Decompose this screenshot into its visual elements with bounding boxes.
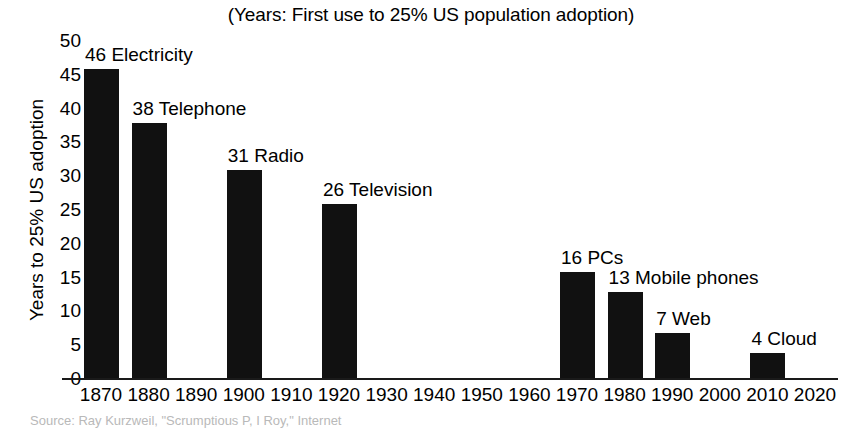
bar	[608, 292, 643, 380]
y-axis-tick: 40	[41, 98, 81, 117]
y-axis-tick: 5	[41, 335, 81, 354]
bar	[227, 170, 262, 380]
bar-value-label: 26 Television	[323, 179, 433, 202]
bar	[655, 333, 690, 380]
bar	[132, 123, 167, 380]
source-note: Source: Ray Kurzweil, "Scrumptious P, I …	[30, 414, 342, 428]
x-axis-tick: 2020	[785, 384, 845, 405]
bar	[750, 353, 785, 380]
y-axis-tick: 35	[41, 132, 81, 151]
bar-value-label: 4 Cloud	[751, 328, 817, 351]
bar-value-label: 7 Web	[656, 308, 711, 331]
y-axis-tick: 15	[41, 267, 81, 286]
plot-area: 50454035302520151050 46 Electricity38 Te…	[88, 40, 838, 380]
bar-value-label: 38 Telephone	[133, 98, 247, 121]
y-axis-tick: 50	[41, 31, 81, 50]
y-axis-tick: 30	[41, 166, 81, 185]
y-axis-tick: 20	[41, 233, 81, 252]
bar	[322, 204, 357, 380]
bar	[84, 69, 119, 380]
y-axis-tick: 25	[41, 200, 81, 219]
chart-title: (Years: First use to 25% US population a…	[0, 4, 862, 26]
bar-value-label: 46 Electricity	[85, 44, 193, 67]
y-axis-tick: 10	[41, 301, 81, 320]
y-axis-tick: 45	[41, 64, 81, 83]
bar-value-label: 13 Mobile phones	[609, 267, 759, 290]
bar	[560, 272, 595, 380]
x-axis-line	[62, 378, 838, 380]
bar-value-label: 31 Radio	[228, 145, 304, 168]
